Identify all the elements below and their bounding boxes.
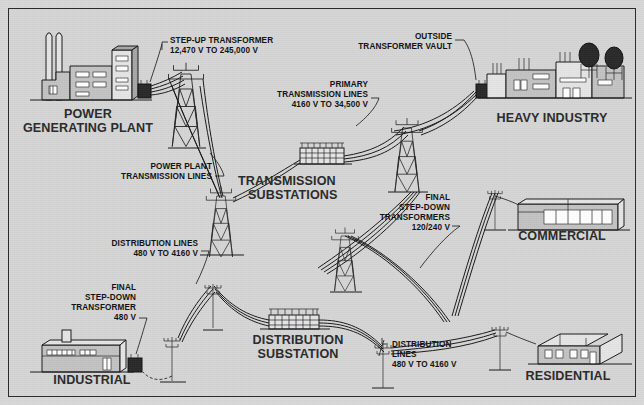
heading-transmission-substations-line2: SUBSTATIONS: [248, 189, 338, 203]
callout-distribution-lines-lower-line2: LINES: [392, 351, 417, 360]
heading-distribution-substation: DISTRIBUTION: [228, 334, 368, 348]
callout-power-plant-transmission-lines: POWER PLANT: [60, 163, 212, 172]
distribution-pole-2: [375, 344, 391, 388]
heavy-industry-building: [478, 43, 632, 98]
callout-step-up-transformer-voltage: 12,470 V TO 245,000 V: [170, 47, 258, 56]
power-generating-plant-building: [30, 33, 152, 100]
final-step-down-transformer-industrial-box: [128, 354, 142, 372]
callout-final-step-down-transformer-industrial-line2: STEP-DOWN: [20, 294, 136, 303]
heading-power-generating-plant: POWER: [8, 108, 168, 122]
heading-heavy-industry: HEAVY INDUSTRY: [466, 112, 638, 126]
industrial-building: [30, 330, 134, 372]
heading-industrial: INDUSTRIAL: [24, 374, 160, 388]
callout-primary-transmission-lines-line2: TRANSMISSION LINES: [240, 91, 368, 100]
distribution-pole-industrial: [164, 337, 180, 381]
transmission-substation-yard: [294, 143, 352, 164]
callout-outside-transformer-vault-line2: TRANSFORMER VAULT: [290, 43, 452, 52]
callout-distribution-lines-upper: DISTRIBUTION LINES: [58, 240, 198, 249]
callout-final-step-down-transformer-industrial-voltage: 480 V: [20, 314, 136, 323]
callout-final-step-down-transformers-voltage: 120/240 V: [352, 224, 450, 233]
distribution-pole-commercial: [488, 190, 502, 230]
heading-distribution-substation-line2: SUBSTATION: [228, 348, 368, 362]
step-up-transformer-box: [138, 80, 151, 98]
callout-power-plant-transmission-lines-line2: TRANSMISSION LINES: [60, 173, 212, 182]
transmission-tower-d: [332, 227, 359, 291]
heading-transmission-substations: TRANSMISSION: [238, 175, 336, 189]
callout-outside-transformer-vault: OUTSIDE: [290, 33, 452, 42]
diagram-page: .ln{fill:none;stroke:#1a1a1a;stroke-widt…: [0, 0, 644, 405]
transmission-tower-a: [169, 63, 204, 147]
callout-final-step-down-transformers: FINAL: [352, 194, 450, 203]
heading-commercial: COMMERCIAL: [492, 230, 632, 244]
callout-final-step-down-transformers-line3: TRANSFORMERS: [352, 214, 450, 223]
callout-distribution-lines-lower: DISTRIBUTION: [392, 341, 451, 350]
callout-final-step-down-transformer-industrial-line3: TRANSFORMER: [20, 304, 136, 313]
transmission-tower-c: [392, 118, 423, 192]
transmission-tower-b: [206, 187, 235, 257]
residential-building: [528, 334, 632, 364]
callout-distribution-lines-upper-voltage: 480 V TO 4160 V: [58, 250, 198, 259]
callout-primary-transmission-lines-voltage: 4160 V TO 34,500 V: [240, 101, 368, 110]
callout-distribution-lines-lower-voltage: 480 V TO 4160 V: [392, 361, 457, 370]
heading-residential: RESIDENTIAL: [498, 370, 638, 384]
heading-power-generating-plant-line2: GENERATING PLANT: [8, 122, 168, 136]
distribution-pole-3: [492, 326, 508, 370]
outside-transformer-vault-box: [476, 80, 488, 98]
commercial-building: [508, 199, 630, 230]
callout-final-step-down-transformers-line2: STEP-DOWN: [352, 204, 450, 213]
callout-step-up-transformer: STEP-UP TRANSFORMER: [170, 37, 273, 46]
callout-final-step-down-transformer-industrial: FINAL: [20, 284, 136, 293]
callout-primary-transmission-lines: PRIMARY: [240, 81, 368, 90]
